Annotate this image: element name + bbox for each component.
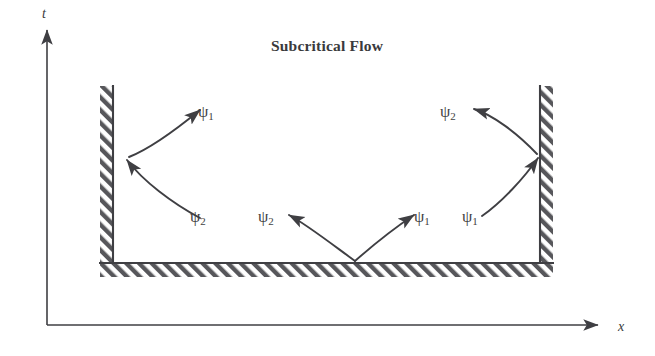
wave-label-glyph: ψ xyxy=(198,102,209,121)
diagram-canvas: Subcritical Flow t x xyxy=(0,0,655,356)
characteristic-right-outgoing xyxy=(474,109,537,154)
left-wall-hatch xyxy=(100,86,113,277)
wave-label-left-outgoing: ψ1 xyxy=(198,102,214,122)
wave-label-left-incoming: ψ2 xyxy=(190,207,206,227)
characteristic-floor-right-outgoing xyxy=(355,215,414,261)
wave-label-subscript: 2 xyxy=(200,215,206,227)
wave-label-right-outgoing: ψ2 xyxy=(440,102,456,122)
wave-label-floor-left-outgoing: ψ2 xyxy=(258,207,274,227)
characteristic-right-incoming xyxy=(482,158,538,216)
wave-label-glyph: ψ xyxy=(462,207,473,226)
left-wall xyxy=(100,85,113,277)
wave-label-subscript: 1 xyxy=(424,215,430,227)
x-axis-label: x xyxy=(617,319,625,334)
characteristic-left-outgoing xyxy=(129,110,200,157)
wave-labels-group: ψ1 ψ2 ψ2 ψ1 ψ2 ψ1 xyxy=(190,102,478,227)
bottom-wall xyxy=(99,263,554,277)
wave-label-subscript: 1 xyxy=(472,215,478,227)
wave-label-glyph: ψ xyxy=(190,207,201,226)
wave-label-subscript: 2 xyxy=(268,215,274,227)
wave-label-glyph: ψ xyxy=(414,207,425,226)
wave-label-glyph: ψ xyxy=(258,207,269,226)
right-wall xyxy=(540,85,553,277)
characteristic-floor-left-outgoing xyxy=(289,215,355,261)
right-wall-hatch xyxy=(540,86,553,277)
bottom-wall-hatch xyxy=(100,263,553,277)
page-title: Subcritical Flow xyxy=(271,37,384,54)
wave-label-right-incoming: ψ1 xyxy=(462,207,478,227)
subcritical-flow-figure: Subcritical Flow t x xyxy=(0,0,655,356)
t-axis-label: t xyxy=(42,6,47,21)
wave-label-subscript: 1 xyxy=(208,110,214,122)
wave-label-glyph: ψ xyxy=(440,102,451,121)
wave-label-subscript: 2 xyxy=(450,110,456,122)
wave-label-floor-right-outgoing: ψ1 xyxy=(414,207,430,227)
axes-group: t x xyxy=(42,6,625,334)
characteristic-curves-group xyxy=(127,109,538,261)
